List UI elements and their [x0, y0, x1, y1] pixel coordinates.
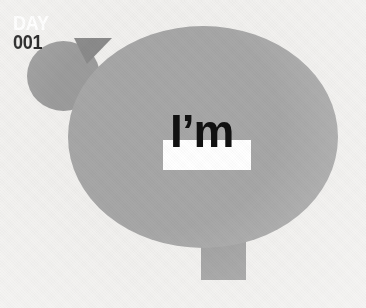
poster-canvas: DAY 001 I’m [0, 0, 366, 308]
day-badge-label: DAY 001 [13, 13, 65, 52]
artboard: DAY 001 I’m [0, 0, 366, 308]
headline-text: I’m [170, 108, 233, 154]
day-badge-line-2: 001 [13, 32, 58, 51]
